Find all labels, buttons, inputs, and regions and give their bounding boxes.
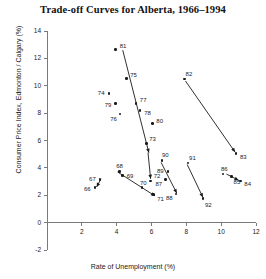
chart-container: Trade-off Curves for Alberta, 1966–1994 …: [0, 0, 266, 279]
trend-line-1991-1992: [187, 164, 203, 197]
trend-lines-layer: [0, 0, 266, 279]
trend-arrowhead-1982-1983: [231, 148, 235, 152]
trend-line-1990-1988: [161, 162, 177, 193]
trend-arrowhead-1966-1972: [151, 192, 155, 196]
trend-line-1982-1983: [185, 81, 235, 152]
trend-line-1974-1981: [123, 50, 149, 153]
